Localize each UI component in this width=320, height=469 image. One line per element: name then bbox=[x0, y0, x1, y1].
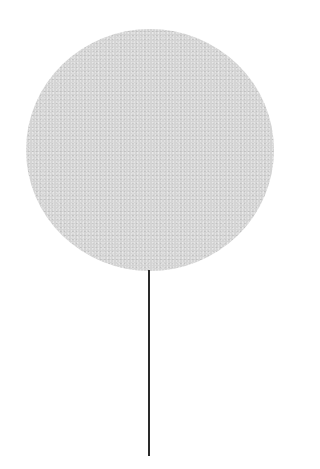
stick bbox=[148, 270, 150, 456]
gray-disc bbox=[26, 29, 274, 271]
